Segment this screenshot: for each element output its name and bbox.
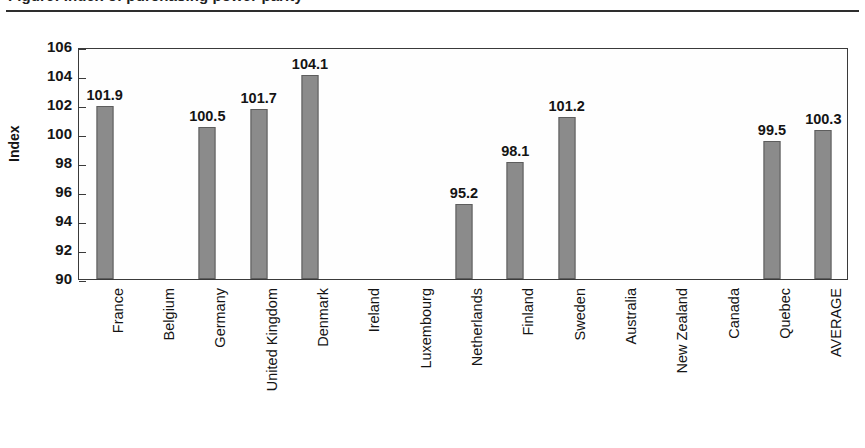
y-tick-label: 98 (55, 154, 72, 171)
bar-slot (336, 49, 387, 279)
x-axis-category-labels: FranceBelgiumGermanyUnited KingdomDenmar… (78, 282, 848, 446)
bar-slot: 98.1 (490, 49, 541, 279)
bar-value-label: 98.1 (501, 143, 529, 159)
x-axis-label: Finland (520, 288, 536, 336)
bar-slot: 95.2 (438, 49, 489, 279)
x-axis-label: New Zealand (674, 288, 690, 373)
bar[interactable] (301, 75, 318, 279)
bar-slot: 101.9 (79, 49, 130, 279)
bar[interactable] (96, 106, 113, 279)
category-slot: Finland (489, 282, 540, 442)
x-axis-label: Netherlands (469, 288, 485, 366)
bar[interactable] (558, 117, 575, 279)
x-axis-label: Germany (212, 288, 228, 348)
x-axis-label: Australia (623, 288, 639, 344)
bar-slot: 100.3 (798, 49, 849, 279)
x-axis-label: Ireland (366, 288, 382, 332)
bar-slot (592, 49, 643, 279)
bar-value-label: 99.5 (758, 122, 786, 138)
title-divider (6, 10, 859, 12)
x-axis-label: Belgium (161, 288, 177, 340)
category-slot: Luxembourg (386, 282, 437, 442)
category-slot: AVERAGE (797, 282, 848, 442)
category-slot: Belgium (129, 282, 180, 442)
bar-slot (387, 49, 438, 279)
category-slot: New Zealand (643, 282, 694, 442)
bar-value-label: 101.7 (241, 90, 277, 106)
y-tick-label: 94 (55, 212, 72, 229)
bar[interactable] (815, 130, 832, 279)
bar[interactable] (763, 141, 780, 279)
bar[interactable] (250, 109, 267, 279)
bar-value-label: 100.5 (189, 108, 225, 124)
bar[interactable] (507, 162, 524, 279)
bar-value-label: 95.2 (450, 185, 478, 201)
bar-value-label: 104.1 (292, 56, 328, 72)
category-slot: Sweden (540, 282, 591, 442)
x-axis-label: Sweden (572, 288, 588, 340)
x-axis-label: AVERAGE (828, 288, 844, 357)
x-axis-label: France (110, 288, 126, 333)
x-axis-label: Canada (726, 288, 742, 339)
x-axis-label: Quebec (777, 288, 793, 339)
bar-value-label: 101.9 (87, 87, 123, 103)
bar-slot (130, 49, 181, 279)
category-slot: United Kingdom (232, 282, 283, 442)
bar-value-label: 101.2 (549, 98, 585, 114)
plot-area: 1061041021009896949290 101.9100.5101.710… (78, 48, 848, 280)
category-slot: Canada (694, 282, 745, 442)
bar[interactable] (199, 127, 216, 279)
bar-slot: 104.1 (284, 49, 335, 279)
y-tick-label: 92 (55, 241, 72, 258)
bar-chart-figure: Index 1061041021009896949290 101.9100.51… (0, 14, 865, 448)
category-slot: Quebec (745, 282, 796, 442)
bar-slot: 101.2 (541, 49, 592, 279)
y-tick-label: 102 (47, 96, 72, 113)
bar-slot: 101.7 (233, 49, 284, 279)
y-tick-label: 90 (55, 270, 72, 287)
x-axis-label: Luxembourg (418, 288, 434, 369)
category-slot: Netherlands (437, 282, 488, 442)
category-slot: Australia (591, 282, 642, 442)
figure-title: Figure: Index of purchasing power parity (8, 0, 303, 4)
bar-slot: 100.5 (182, 49, 233, 279)
y-axis-title: Index (6, 138, 22, 162)
bar-value-label: 100.3 (805, 111, 841, 127)
bar[interactable] (455, 204, 472, 279)
bar-slot (695, 49, 746, 279)
x-axis-label: Denmark (315, 288, 331, 347)
x-axis-label: United Kingdom (264, 288, 280, 391)
category-slot: Ireland (335, 282, 386, 442)
y-tick-label: 96 (55, 183, 72, 200)
bar-slot (644, 49, 695, 279)
category-slot: France (78, 282, 129, 442)
y-tick-label: 100 (47, 125, 72, 142)
category-slot: Denmark (283, 282, 334, 442)
y-tick-label: 104 (47, 67, 72, 84)
bar-slot: 99.5 (746, 49, 797, 279)
y-tick-label: 106 (47, 38, 72, 55)
category-slot: Germany (181, 282, 232, 442)
